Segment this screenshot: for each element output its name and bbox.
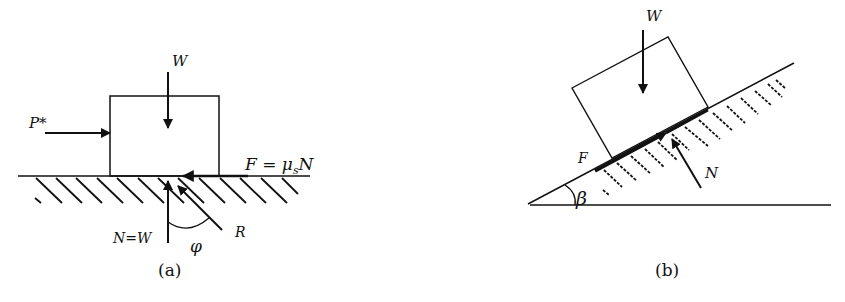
panel-b-caption: (b) xyxy=(655,260,679,280)
angle-arc xyxy=(168,218,209,228)
friction-diagram: W P* F = μsN N=W φ R (a) xyxy=(0,0,845,302)
friction-label: F = μsN xyxy=(244,154,315,177)
ground-hatching xyxy=(35,178,298,203)
weight-label: W xyxy=(172,52,189,70)
panel-a-caption: (a) xyxy=(158,260,181,280)
panel-b: W F N β (b) xyxy=(528,7,831,280)
normal-arrow xyxy=(672,139,701,188)
panel-a: W P* F = μsN N=W φ R (a) xyxy=(18,52,315,280)
block xyxy=(110,96,219,176)
resultant-label: R xyxy=(234,224,246,240)
angle-arc xyxy=(565,185,575,205)
angle-label: φ xyxy=(190,236,202,256)
friction-arrow-tail xyxy=(666,110,708,133)
weight-label: W xyxy=(646,7,663,25)
block xyxy=(572,37,708,158)
normal-label: N xyxy=(704,164,719,182)
friction-label: F xyxy=(577,150,589,166)
push-force-label: P* xyxy=(28,114,47,132)
normal-label: N=W xyxy=(112,230,153,246)
angle-label: β xyxy=(575,187,587,209)
incline-line xyxy=(528,63,794,204)
